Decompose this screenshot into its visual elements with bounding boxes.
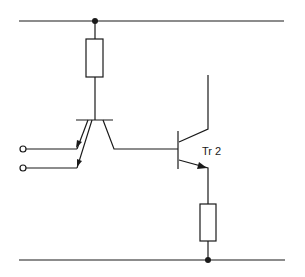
resistor-top [86,39,103,77]
arrow-icon [76,140,82,148]
input-terminal-2 [20,165,26,171]
tr2-collector [179,75,208,142]
bottom-junction-dot [205,257,211,263]
circuit-diagram: Tr 2 [0,0,305,277]
arrow-icon [77,159,82,167]
tr2-label: Tr 2 [202,145,221,157]
input-terminal-1 [20,146,26,152]
arrow-icon [197,162,207,169]
wire-tr1-to-tr2-base [103,120,178,149]
resistor-bottom [200,204,216,241]
